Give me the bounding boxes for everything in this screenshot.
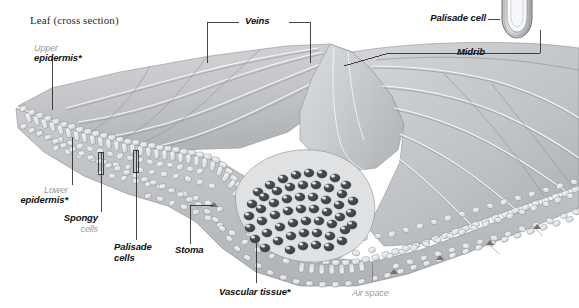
label-midrib: Midrib xyxy=(457,47,485,58)
label-upper-epidermis-line2: epidermis* xyxy=(34,53,82,64)
label-palisade-cell-inset: Palisade cell xyxy=(400,13,486,24)
leaf-diagram-illustration xyxy=(0,0,579,308)
label-air-space: Air space xyxy=(352,288,389,298)
leaf-cross-section-figure: Leaf (cross section) Upper epidermis* Ve… xyxy=(0,0,579,308)
label-spongy-cells-line2: cells xyxy=(40,224,98,234)
label-palisade-cells-line2: cells xyxy=(114,253,152,264)
label-lower-epidermis-line2: epidermis* xyxy=(0,195,68,206)
label-upper-epidermis: Upper epidermis* xyxy=(34,43,82,64)
label-lower-epidermis: Lower epidermis* xyxy=(0,185,68,206)
label-veins: Veins xyxy=(245,16,270,27)
figure-title: Leaf (cross section) xyxy=(30,14,119,26)
label-stoma: Stoma xyxy=(175,245,204,256)
palisade-cell-inset-drawing xyxy=(502,0,532,38)
label-palisade-cells: Palisade cells xyxy=(114,242,152,263)
label-vascular-tissue: Vascular tissue* xyxy=(219,287,290,298)
label-spongy-cells: Spongy cells xyxy=(40,213,98,234)
label-spongy-cells-line1: Spongy xyxy=(40,213,98,224)
